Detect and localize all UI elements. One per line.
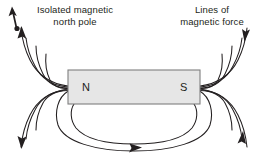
south-pole-letter: S [180, 81, 187, 93]
field-line-group-upper-right [200, 28, 247, 89]
field-line-group-upper-left [21, 28, 68, 89]
field-line-ll-3 [36, 91, 68, 131]
magnetic-field-diagram: Isolated magnetic north pole Lines of ma… [0, 0, 263, 156]
field-line-lr-3 [200, 91, 232, 131]
isolated-north-pole-label: Isolated magnetic north pole [26, 4, 124, 27]
upper-right-arrow-icon [242, 29, 250, 42]
lines-of-magnetic-force-label: Lines of magnetic force [165, 4, 259, 27]
compass-needle-arrow-icon [9, 7, 20, 32]
field-line-bottom-inner [71, 104, 197, 144]
north-pole-letter: N [82, 81, 90, 93]
